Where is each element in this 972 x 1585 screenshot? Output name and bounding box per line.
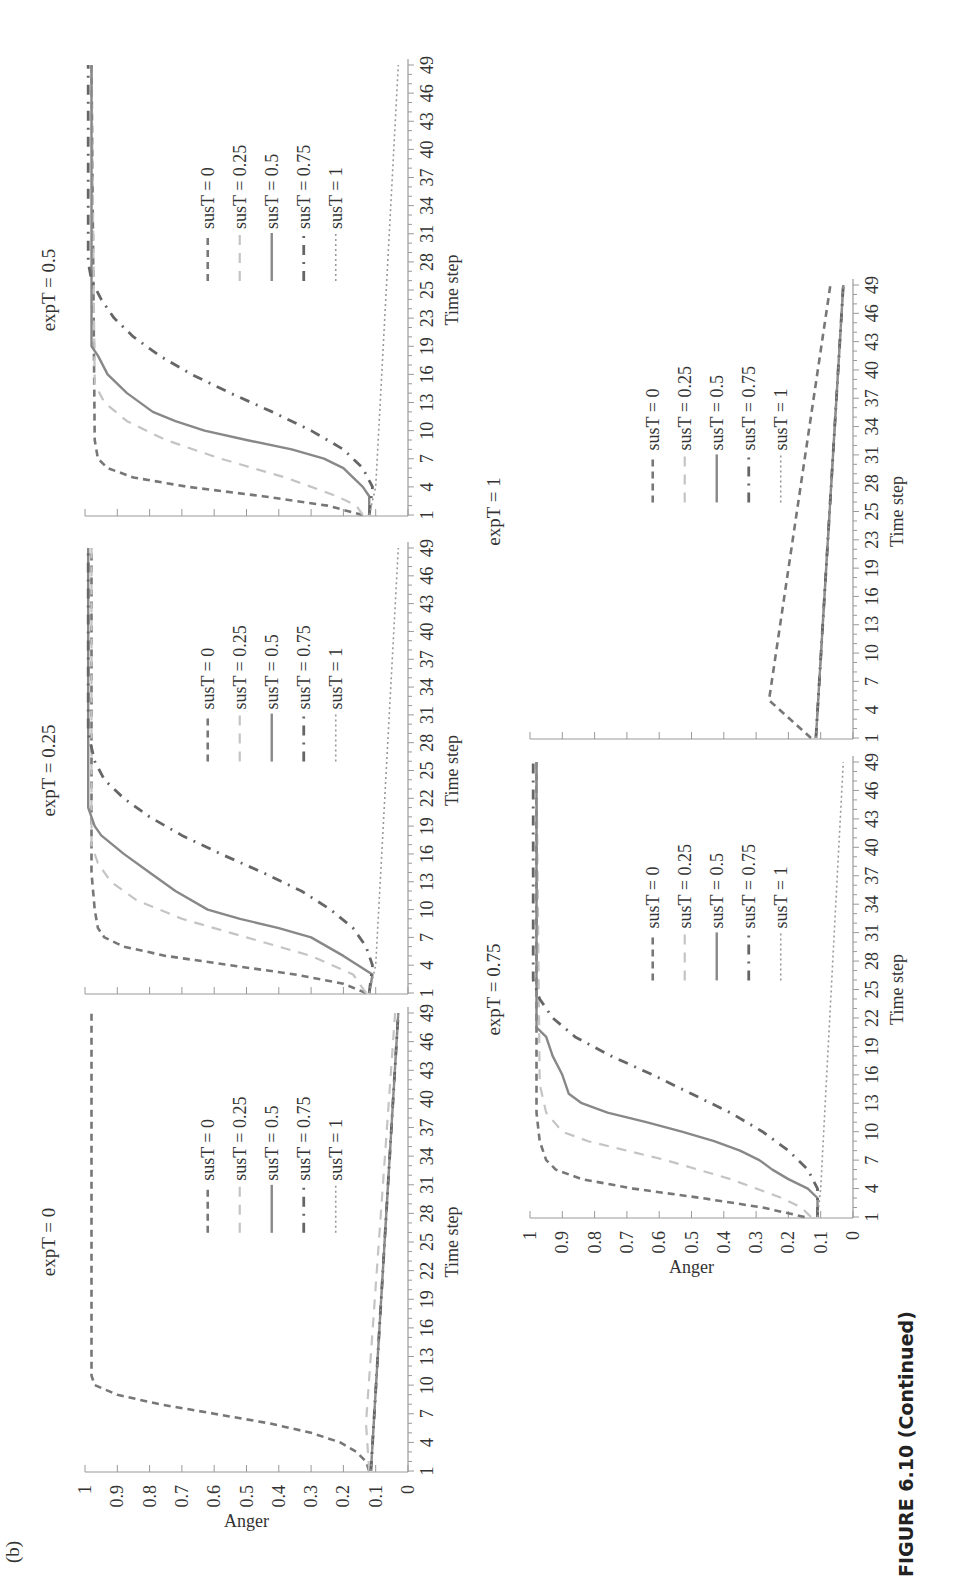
series-line — [92, 65, 363, 515]
y-tick-label: 1 — [75, 1485, 95, 1494]
x-tick-label: 25 — [417, 1233, 437, 1251]
x-tick-label: 28 — [417, 734, 437, 752]
x-tick-label: 25 — [862, 981, 882, 999]
legend: susT = 0susT = 0.25susT = 0.5susT = 0.75… — [643, 844, 791, 980]
axes: 00.10.20.30.40.50.60.70.80.9114710131619… — [75, 1004, 462, 1531]
y-tick-label: 0.3 — [301, 1485, 321, 1508]
legend-item: susT = 0.75 — [294, 625, 314, 709]
legend: susT = 0susT = 0.25susT = 0.5susT = 0.75… — [198, 145, 346, 281]
chart-title: expT = 0.25 — [38, 724, 59, 816]
series-line — [537, 762, 818, 1217]
y-tick-label: 0.9 — [552, 1231, 572, 1254]
figure-rotated-landscape: (b) 00.10.20.30.40.50.60.70.80.911471013… — [0, 0, 972, 1585]
y-tick-label: 0.7 — [172, 1485, 192, 1508]
x-tick-label: 31 — [417, 706, 437, 724]
x-tick-label: 31 — [862, 446, 882, 464]
x-tick-label: 13 — [862, 1094, 882, 1112]
legend-item: susT = 0 — [198, 1119, 218, 1181]
series-line — [92, 65, 370, 515]
chart-svg: 1471013161923252831343740434649Time step… — [15, 0, 488, 585]
x-tick-label: 34 — [862, 418, 882, 436]
legend-item: susT = 1 — [326, 167, 346, 229]
x-tick-label: 13 — [862, 616, 882, 634]
x-tick-label: 25 — [417, 281, 437, 299]
legend-item: susT = 0.5 — [707, 375, 727, 450]
legend-item: susT = 1 — [771, 867, 791, 929]
x-axis-label: Time step — [887, 954, 907, 1025]
legend: susT = 0susT = 0.25susT = 0.5susT = 0.75… — [198, 1096, 346, 1232]
x-tick-label: 19 — [862, 559, 882, 577]
x-tick-label: 46 — [862, 304, 882, 322]
x-tick-label: 37 — [417, 650, 437, 668]
x-tick-label: 43 — [417, 1061, 437, 1079]
y-tick-label: 0.4 — [269, 1485, 289, 1508]
y-tick-label: 0.8 — [585, 1231, 605, 1254]
x-axis-label: Time step — [442, 1207, 462, 1278]
x-tick-label: 16 — [417, 845, 437, 863]
y-tick-label: 0.5 — [237, 1485, 257, 1508]
series-line — [533, 762, 817, 1217]
x-tick-label: 10 — [417, 901, 437, 919]
x-tick-label: 23 — [417, 309, 437, 327]
x-tick-label: 40 — [417, 1090, 437, 1108]
x-tick-label: 7 — [417, 933, 437, 942]
legend-item: susT = 0.75 — [294, 1096, 314, 1180]
legend-item: susT = 0.25 — [230, 625, 250, 709]
x-tick-label: 1 — [862, 734, 882, 743]
x-axis-label: Time step — [442, 255, 462, 326]
series-line — [88, 548, 372, 993]
chart-panel-expT-0.5: 1471013161923252831343740434649Time step… — [15, 0, 488, 585]
series-line — [818, 762, 844, 1217]
series-line — [537, 762, 805, 1217]
y-tick-label: 0.4 — [714, 1231, 734, 1254]
x-tick-label: 7 — [862, 1156, 882, 1165]
y-tick-label: 0.8 — [140, 1485, 160, 1508]
series-group — [88, 548, 398, 993]
x-tick-label: 46 — [417, 84, 437, 102]
legend-item: susT = 0 — [198, 167, 218, 229]
x-tick-label: 1 — [417, 1467, 437, 1476]
x-tick-label: 10 — [862, 1123, 882, 1141]
x-tick-label: 1 — [417, 511, 437, 520]
legend-item: susT = 1 — [326, 648, 346, 710]
series-line — [88, 548, 372, 993]
legend-item: susT = 0.25 — [675, 844, 695, 928]
x-tick-label: 4 — [417, 961, 437, 970]
series-line — [537, 762, 812, 1217]
x-tick-label: 19 — [862, 1037, 882, 1055]
x-tick-label: 7 — [417, 1409, 437, 1418]
x-tick-label: 43 — [862, 333, 882, 351]
series-line — [88, 65, 372, 515]
x-tick-label: 40 — [417, 622, 437, 640]
x-tick-label: 40 — [862, 361, 882, 379]
x-tick-label: 28 — [862, 474, 882, 492]
x-tick-label: 22 — [417, 789, 437, 807]
x-tick-label: 31 — [862, 924, 882, 942]
y-axis-label: Anger — [669, 1257, 714, 1277]
legend-item: susT = 0.5 — [262, 1105, 282, 1180]
x-tick-label: 28 — [417, 253, 437, 271]
y-tick-label: 0.1 — [811, 1231, 831, 1254]
x-tick-label: 13 — [417, 394, 437, 412]
y-tick-label: 0.3 — [746, 1231, 766, 1254]
legend-item: susT = 0.25 — [675, 366, 695, 450]
x-tick-label: 10 — [862, 644, 882, 662]
series-group — [88, 65, 398, 515]
x-tick-label: 7 — [417, 454, 437, 463]
x-tick-label: 1 — [862, 1213, 882, 1222]
x-tick-label: 7 — [862, 677, 882, 686]
chart-title: expT = 0 — [38, 1208, 59, 1276]
axes: 00.10.20.30.40.50.60.70.80.9114710131619… — [520, 753, 907, 1277]
series-line — [369, 65, 398, 515]
y-axis-label: Anger — [224, 1511, 269, 1531]
x-tick-label: 4 — [417, 482, 437, 491]
legend-item: susT = 0.75 — [294, 145, 314, 229]
y-tick-label: 0.9 — [107, 1485, 127, 1508]
legend-item: susT = 0.5 — [262, 154, 282, 229]
axes: 1471013161923252831343740434649Time step — [530, 276, 907, 743]
legend-item: susT = 0.75 — [739, 366, 759, 450]
x-tick-label: 19 — [417, 337, 437, 355]
series-line — [92, 65, 363, 515]
y-tick-label: 0.6 — [204, 1485, 224, 1508]
figure-caption: FIGURE 6.10 (Continued) — [895, 1311, 917, 1577]
